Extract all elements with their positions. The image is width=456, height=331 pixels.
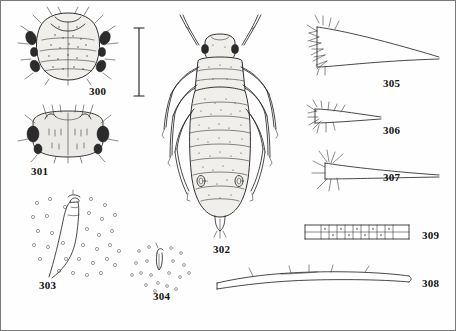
figure-307 — [303, 149, 443, 193]
fig304-artwork — [131, 243, 191, 292]
fig305-artwork — [307, 15, 439, 75]
fig306-artwork — [307, 100, 381, 133]
figure-303-label: 303 — [39, 279, 56, 291]
figure-302 — [153, 9, 288, 241]
figure-303 — [21, 189, 131, 281]
figure-300-label: 300 — [89, 85, 106, 97]
figure-305 — [303, 13, 443, 79]
figure-301 — [11, 105, 126, 163]
figure-plate: 300 — [0, 0, 456, 331]
figure-307-label: 307 — [383, 171, 400, 183]
fig308-artwork — [217, 265, 411, 289]
fig307-artwork — [312, 150, 439, 191]
fig301-artwork — [18, 105, 118, 163]
figure-301-label: 301 — [31, 165, 48, 177]
figure-304 — [127, 239, 197, 295]
scale-bar — [131, 26, 147, 98]
figure-305-label: 305 — [383, 77, 400, 89]
fig309-artwork — [305, 225, 409, 239]
figure-300 — [11, 7, 126, 85]
fig303-artwork — [31, 190, 120, 278]
figure-302-label: 302 — [213, 243, 230, 255]
figure-304-label: 304 — [153, 290, 170, 302]
figure-308-label: 308 — [422, 277, 439, 289]
figure-308 — [213, 263, 413, 295]
figure-306-label: 306 — [383, 124, 400, 136]
figure-309 — [303, 219, 413, 245]
figure-309-label: 309 — [422, 229, 439, 241]
fig302-artwork — [162, 15, 278, 238]
fig300-artwork — [18, 7, 118, 85]
